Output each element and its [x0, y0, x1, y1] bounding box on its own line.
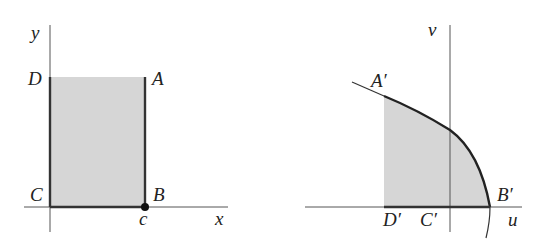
vertex-label-A: A	[150, 68, 164, 89]
left-panel: y x D A C B c	[24, 22, 228, 232]
x-axis-label: x	[214, 208, 224, 229]
y-axis-label: y	[29, 22, 40, 43]
shaded-image-region	[384, 96, 490, 207]
vertex-label-B-prime: B′	[497, 184, 514, 205]
right-panel: v u A′ B′ C′ D′	[305, 19, 522, 238]
vertex-label-D-prime: D′	[382, 209, 402, 230]
parabola-extension-lower	[486, 207, 490, 238]
tick-label-c: c	[139, 208, 148, 229]
vertex-label-A-prime: A′	[369, 70, 388, 91]
vertex-label-D: D	[27, 68, 42, 89]
u-axis-label: u	[508, 209, 518, 230]
vertex-label-C-prime: C′	[420, 209, 438, 230]
diagram-canvas: y x D A C B c v u A′ B′ C′ D′	[0, 0, 545, 246]
vertex-label-C: C	[30, 184, 43, 205]
shaded-rectangle-region	[50, 77, 145, 207]
vertex-label-B: B	[153, 184, 165, 205]
v-axis-label: v	[428, 19, 437, 40]
